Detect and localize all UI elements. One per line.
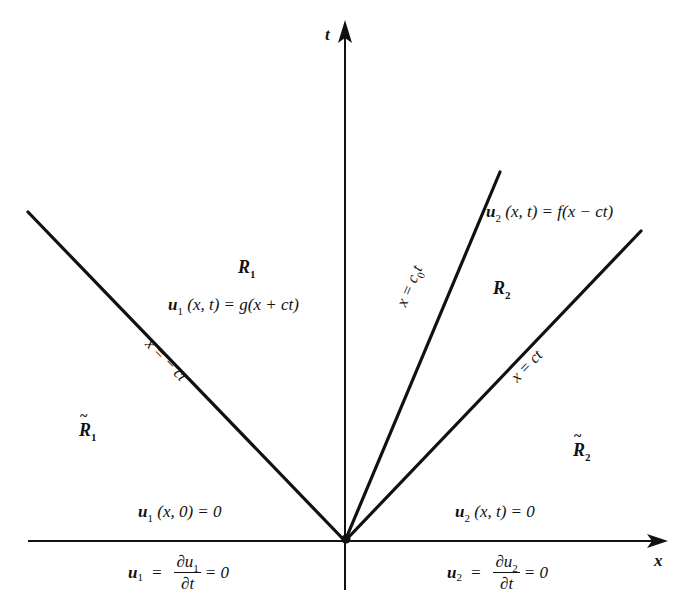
t-axis-label: t: [325, 26, 330, 43]
u1-initial-condition: u1 (x, 0) = 0: [138, 503, 222, 520]
region-r1-tilde-label: ~R1: [79, 421, 97, 439]
u2-boundary-condition: u2 = ∂u2 ∂t = 0: [447, 553, 548, 592]
u2-zero-condition: u2 (x, t) = 0: [455, 503, 535, 520]
region-r1-label: R1: [238, 258, 256, 276]
u2-solution-equation: u2 (x, t) = f(x − ct): [486, 203, 613, 220]
region-r2-label: R2: [493, 279, 511, 297]
partial-derivative-fraction: ∂u2 ∂t: [493, 553, 519, 592]
line-x-equals-c0t: [345, 172, 500, 541]
tilde-accent: ~: [80, 410, 87, 424]
origin-point: [342, 535, 351, 544]
u1-solution-equation: u1 (x, t) = g(x + ct): [168, 296, 299, 313]
x-axis-label: x: [654, 552, 663, 569]
tilde-accent: ~: [574, 430, 581, 444]
diagram-lines: [0, 0, 686, 611]
wave-characteristics-diagram: t x R1 R2 ~R1 ~R2 u1 (x, t) = g(x + ct) …: [0, 0, 686, 611]
u1-boundary-condition: u1 = ∂u1 ∂t = 0: [128, 553, 229, 592]
partial-derivative-fraction: ∂u1 ∂t: [174, 553, 200, 592]
region-r2-tilde-label: ~R2: [573, 441, 591, 459]
